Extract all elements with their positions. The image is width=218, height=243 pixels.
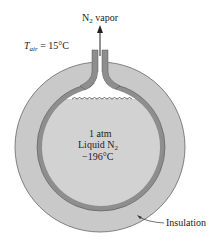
liquid-temperature-label: −196°C bbox=[82, 151, 113, 162]
vapor-label: N2 vapor bbox=[82, 12, 118, 27]
tank-drawing bbox=[0, 0, 218, 243]
air-temperature-label: Tair = 15°C bbox=[24, 40, 69, 55]
pressure-label: 1 atm bbox=[89, 128, 112, 139]
insulation-label: Insulation bbox=[166, 217, 206, 228]
diagram-root: N2 vapor Tair = 15°C 1 atm Liquid N2 −19… bbox=[0, 0, 218, 243]
